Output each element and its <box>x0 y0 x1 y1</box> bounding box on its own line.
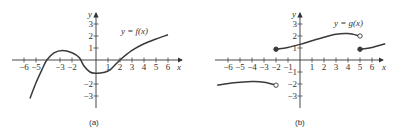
x-tick-label: 1 <box>310 62 315 72</box>
x-tick-label: 4 <box>346 62 351 72</box>
closed-endpoint <box>358 47 362 51</box>
x-tick-label: −2 <box>67 62 77 72</box>
legend-g: y = g(x) <box>333 18 363 28</box>
legend-f: y = f(x) <box>120 26 148 36</box>
x-tick-label: −3 <box>55 62 65 72</box>
panel-b: −6−5−4−3−2−1123456321−1−2−3 y x y = g(x)… <box>215 9 386 127</box>
curve-segment <box>276 33 360 49</box>
x-tick-label: 3 <box>130 62 135 72</box>
y-tick-label: 1 <box>89 43 94 53</box>
y-tick-label: −3 <box>83 91 93 101</box>
y-tick-label: −3 <box>287 91 297 101</box>
caption-b: (b) <box>295 118 305 127</box>
y-tick-label: 1 <box>293 43 298 53</box>
x-tick-label: −3 <box>259 62 269 72</box>
y-tick-label: 2 <box>89 31 94 41</box>
x-tick-label: −4 <box>247 62 257 72</box>
open-endpoint <box>274 83 278 87</box>
x-tick-label: 2 <box>118 62 123 72</box>
y-tick-label: −1 <box>287 67 297 77</box>
closed-endpoint <box>274 47 278 51</box>
panel-a: −6−5−3−2123456321−2−3 y x y = f(x) (a) <box>12 9 182 127</box>
open-endpoint <box>358 34 362 38</box>
figure: −6−5−3−2123456321−2−3 y x y = f(x) (a) −… <box>0 0 397 139</box>
x-tick-label: 5 <box>358 62 363 72</box>
x-tick-label: −2 <box>271 62 281 72</box>
x-axis-label: x <box>381 62 386 72</box>
x-tick-label: 4 <box>142 62 147 72</box>
x-axis-label: x <box>176 62 181 72</box>
curve-segment <box>360 44 385 49</box>
x-tick-label: 6 <box>166 62 171 72</box>
x-tick-label: 5 <box>154 62 159 72</box>
x-tick-label: 3 <box>334 62 339 72</box>
x-tick-label: −6 <box>19 62 29 72</box>
y-axis-label: y <box>87 9 92 19</box>
curve-f <box>30 35 168 99</box>
y-tick-label: −2 <box>83 79 93 89</box>
x-tick-label: −6 <box>223 62 233 72</box>
x-tick-label: 6 <box>370 62 375 72</box>
y-tick-label: 2 <box>293 31 298 41</box>
y-tick-label: 3 <box>89 19 94 29</box>
x-tick-label: −5 <box>31 62 41 72</box>
curve-segment <box>217 82 276 86</box>
x-tick-label: 2 <box>322 62 327 72</box>
y-tick-label: 3 <box>293 19 298 29</box>
x-tick-label: −5 <box>235 62 245 72</box>
caption-a: (a) <box>89 118 99 127</box>
y-axis-label: y <box>291 9 296 19</box>
y-tick-label: −2 <box>287 79 297 89</box>
